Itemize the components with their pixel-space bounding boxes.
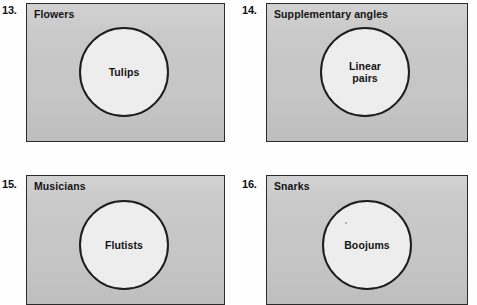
exercise-14: 14. Supplementary angles Linear pairs bbox=[240, 0, 477, 150]
universal-set-label: Musicians bbox=[34, 181, 86, 193]
subset-label: Flutists bbox=[105, 239, 143, 251]
exercise-number: 15. bbox=[2, 179, 17, 190]
subset-label: Linear pairs bbox=[349, 60, 381, 85]
subset-circle: Flutists bbox=[79, 200, 169, 290]
exercise-16: 16. Snarks Boojums bbox=[240, 174, 477, 303]
subset-label: Tulips bbox=[109, 66, 140, 78]
subset-label: Boojums bbox=[344, 239, 390, 251]
subset-circle: Tulips bbox=[79, 27, 169, 117]
universal-set-label: Supplementary angles bbox=[274, 9, 388, 21]
exercise-number: 13. bbox=[2, 5, 17, 16]
exercise-15: 15. Musicians Flutists bbox=[0, 174, 240, 303]
universal-set-label: Flowers bbox=[34, 9, 74, 21]
scan-speck-artifact bbox=[345, 222, 347, 224]
universal-set-label: Snarks bbox=[274, 181, 310, 193]
subset-circle: Linear pairs bbox=[320, 27, 410, 117]
exercise-13: 13. Flowers Tulips bbox=[0, 0, 240, 150]
exercise-number: 16. bbox=[242, 179, 257, 190]
subset-circle: Boojums bbox=[322, 200, 412, 290]
exercise-number: 14. bbox=[242, 5, 257, 16]
